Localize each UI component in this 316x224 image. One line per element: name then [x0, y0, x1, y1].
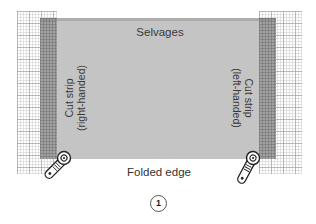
rotary-cutter-icon	[0, 0, 316, 224]
cutting-diagram: Selvages Cut strip (right-handed) Cut st…	[0, 0, 316, 224]
step-number-badge: 1	[150, 195, 167, 212]
